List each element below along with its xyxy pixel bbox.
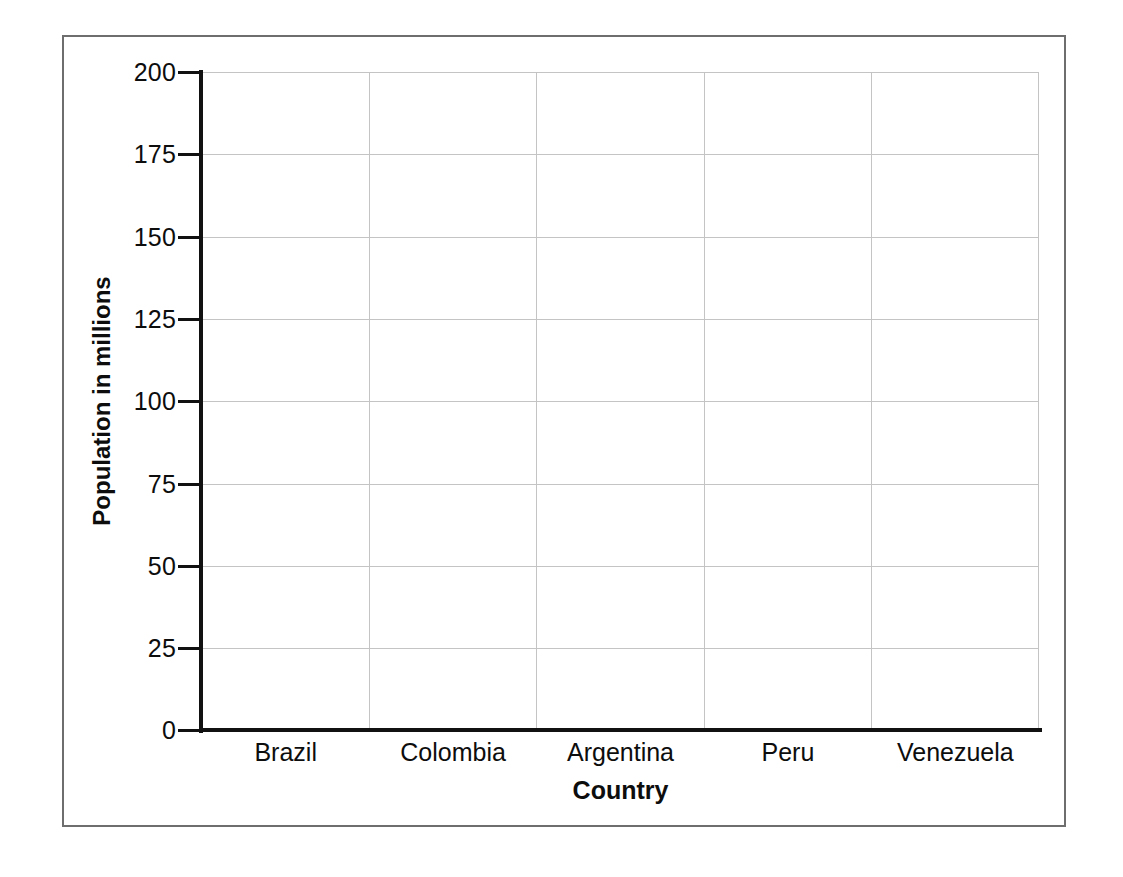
x-tick-label-argentina: Argentina [537, 737, 704, 771]
y-axis-line [199, 70, 203, 733]
y-tick-label-175: 175 [76, 140, 176, 169]
chart-canvas: 200 175 150 125 100 75 50 25 0 [0, 0, 1123, 877]
x-tick-label-peru: Peru [704, 737, 871, 771]
x-axis-line [199, 728, 1042, 732]
bar-slot-venezuela [872, 72, 1039, 730]
x-tick-label-venezuela: Venezuela [872, 737, 1039, 771]
bars-layer [202, 72, 1039, 730]
bar-slot-argentina [537, 72, 704, 730]
x-axis-title: Country [202, 776, 1039, 805]
y-tick-label-25: 25 [76, 634, 176, 663]
plot-area [202, 72, 1039, 730]
y-axis-title: Population in millions [88, 191, 116, 611]
y-tick-label-0: 0 [76, 716, 176, 745]
x-tick-label-brazil: Brazil [202, 737, 369, 771]
y-tick-label-200: 200 [76, 58, 176, 87]
y-axis-tick-labels: 200 175 150 125 100 75 50 25 0 [68, 0, 176, 877]
bar-slot-peru [704, 72, 871, 730]
bar-slot-colombia [369, 72, 536, 730]
bar-slot-brazil [202, 72, 369, 730]
x-tick-label-colombia: Colombia [369, 737, 536, 771]
x-axis-tick-labels: Brazil Colombia Argentina Peru Venezuela [202, 737, 1039, 771]
